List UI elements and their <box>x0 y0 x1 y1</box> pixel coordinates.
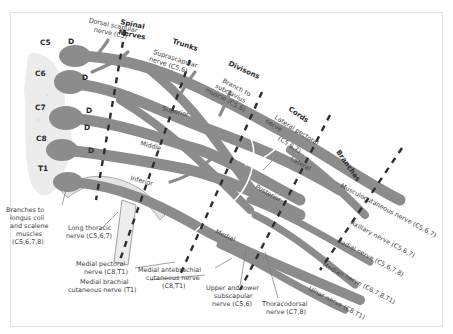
svg-text:longus coli: longus coli <box>10 214 44 222</box>
label-medial-antebrachial: Medial antebrachial cutaneous nerve (C8,… <box>138 266 201 290</box>
heading-divisions: Divisons <box>227 60 261 81</box>
svg-text:Medial brachial: Medial brachial <box>80 278 129 286</box>
dorsal-marker: D <box>86 106 92 115</box>
level-label-c7: C7 <box>35 103 46 112</box>
svg-text:Medial antebrachial: Medial antebrachial <box>138 266 201 274</box>
svg-text:Branches to: Branches to <box>6 206 44 214</box>
dorsal-marker: D <box>84 123 90 132</box>
heading-trunks: Trunks <box>171 37 198 53</box>
level-label-t1: T1 <box>38 164 48 173</box>
svg-text:(C5,6,7,8): (C5,6,7,8) <box>12 238 44 246</box>
svg-text:(C8,T1): (C8,T1) <box>162 282 186 290</box>
svg-text:nerve (C8,T1): nerve (C8,T1) <box>84 268 128 276</box>
svg-text:cutaneous nerve (T1): cutaneous nerve (T1) <box>68 286 137 294</box>
level-label-c5: C5 <box>40 38 51 47</box>
label-subscapular: Upper and lower subscapular nerve (C5,6) <box>206 284 259 308</box>
label-longus-scalene: Branches to longus coli and scalene musc… <box>6 206 49 246</box>
svg-text:nerve (C5,6,7): nerve (C5,6,7) <box>66 232 112 240</box>
svg-text:Medial pectoral: Medial pectoral <box>76 260 125 268</box>
svg-text:Long thoracic: Long thoracic <box>68 224 112 232</box>
clavicle-segment <box>114 200 136 265</box>
svg-text:Upper and lower: Upper and lower <box>206 284 259 292</box>
label-medial-brachial: Medial brachial cutaneous nerve (T1) <box>68 278 137 294</box>
label-long-thoracic: Long thoracic nerve (C5,6,7) <box>66 224 112 240</box>
svg-text:nerve (C7,8): nerve (C7,8) <box>266 308 306 316</box>
level-label-c8: C8 <box>36 134 47 143</box>
label-medial-pectoral: Medial pectoral nerve (C8,T1) <box>76 260 128 276</box>
svg-text:muscles: muscles <box>16 230 43 238</box>
dorsal-marker: D <box>82 73 88 82</box>
svg-text:subscapular: subscapular <box>214 292 253 300</box>
svg-text:cutaneous nerve: cutaneous nerve <box>146 274 200 282</box>
svg-text:Thoracodorsal: Thoracodorsal <box>261 300 308 308</box>
label-thoracodorsal: Thoracodorsal nerve (C7,8) <box>261 300 308 316</box>
dorsal-marker: D <box>68 37 74 46</box>
level-label-c6: C6 <box>35 69 46 78</box>
svg-text:and scalene: and scalene <box>10 222 49 230</box>
svg-text:nerve (C5,6): nerve (C5,6) <box>212 300 252 308</box>
brachial-plexus-diagram: C5 C6 C7 C8 T1 D D D D D Spinal Nerves T… <box>0 0 453 334</box>
dorsal-marker: D <box>88 146 94 155</box>
